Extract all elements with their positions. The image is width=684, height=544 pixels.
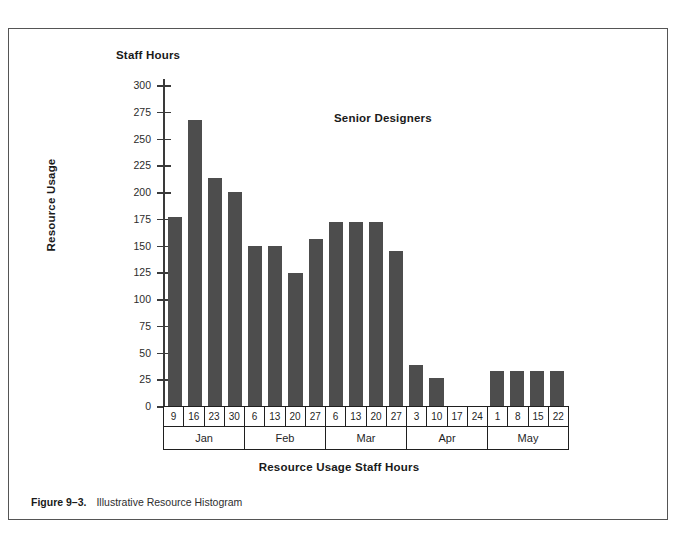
bar <box>248 246 262 407</box>
x-axis-day-cell: 17 <box>448 407 468 426</box>
x-axis-table: 9162330613202761320273101724181522 JanFe… <box>163 406 569 450</box>
bar <box>389 251 403 406</box>
bar <box>228 192 242 406</box>
x-axis-day-cell: 10 <box>427 407 447 426</box>
bar <box>550 371 564 406</box>
x-axis-day-cell: 30 <box>225 407 245 426</box>
bar <box>349 222 363 406</box>
bar <box>309 239 323 406</box>
x-axis-day-cell: 6 <box>245 407 265 426</box>
x-axis-day-cell: 13 <box>265 407 285 426</box>
x-axis-day-cell: 16 <box>184 407 204 426</box>
x-axis-day-cell: 15 <box>529 407 549 426</box>
x-axis-day-cell: 23 <box>205 407 225 426</box>
x-axis-month-cell: Jan <box>164 427 245 449</box>
bar <box>510 371 524 406</box>
figure-caption-number: Figure 9–3. <box>31 496 86 508</box>
x-axis-month-cell: Feb <box>245 427 326 449</box>
bar <box>188 120 202 406</box>
figure-caption-text: Illustrative Resource Histogram <box>96 496 242 508</box>
x-axis-day-cell: 1 <box>488 407 508 426</box>
x-axis-month-cell: Apr <box>407 427 488 449</box>
bar <box>208 178 222 406</box>
chart-plot-area: Staff Hours Resource Usage Senior Design… <box>9 29 669 459</box>
x-axis-day-cell: 13 <box>346 407 366 426</box>
bar <box>168 217 182 406</box>
bar <box>530 371 544 406</box>
x-axis-day-row: 9162330613202761320273101724181522 <box>164 407 568 427</box>
x-axis-month-cell: May <box>488 427 568 449</box>
bar <box>490 371 504 406</box>
bar <box>268 246 282 407</box>
figure-frame: Staff Hours Resource Usage Senior Design… <box>8 28 668 520</box>
bar <box>429 378 443 406</box>
x-axis-day-cell: 27 <box>306 407 326 426</box>
x-axis-day-cell: 20 <box>367 407 387 426</box>
bar <box>288 273 302 406</box>
figure-page: Staff Hours Resource Usage Senior Design… <box>0 0 684 544</box>
x-axis-day-cell: 20 <box>286 407 306 426</box>
x-axis-month-cell: Mar <box>326 427 407 449</box>
bar <box>329 222 343 406</box>
bars-layer <box>9 29 669 459</box>
figure-caption: Figure 9–3.Illustrative Resource Histogr… <box>31 496 242 508</box>
x-axis-month-row: JanFebMarAprMay <box>164 427 568 449</box>
x-axis-title: Resource Usage Staff Hours <box>9 461 669 473</box>
bar <box>369 222 383 406</box>
x-axis-day-cell: 9 <box>164 407 184 426</box>
x-axis-day-cell: 6 <box>326 407 346 426</box>
x-axis-day-cell: 24 <box>468 407 488 426</box>
x-axis-day-cell: 8 <box>508 407 528 426</box>
x-axis-day-cell: 27 <box>387 407 407 426</box>
x-axis-day-cell: 22 <box>549 407 568 426</box>
x-axis-day-cell: 3 <box>407 407 427 426</box>
bar <box>409 365 423 406</box>
